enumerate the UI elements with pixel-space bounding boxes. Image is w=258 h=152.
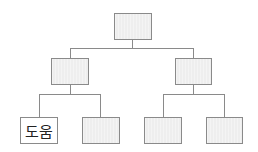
leaf-node-3 <box>144 117 182 144</box>
connector-leaf-3 <box>163 94 164 117</box>
root-node <box>114 13 152 40</box>
connector-root-down <box>132 39 133 48</box>
connector-leaf-1 <box>39 94 40 117</box>
connector-left-down <box>70 84 71 94</box>
connector-level1-bar <box>70 48 194 49</box>
leaf-node-4 <box>206 117 243 144</box>
connector-left-bar <box>39 94 101 95</box>
connector-to-left-branch <box>70 48 71 58</box>
connector-leaf-4 <box>224 94 225 117</box>
connector-leaf-2 <box>100 94 101 117</box>
leaf-node-2 <box>82 117 120 144</box>
connector-to-right-branch <box>193 48 194 58</box>
connector-right-down <box>193 84 194 94</box>
leaf-node-help: 도움 <box>20 117 58 144</box>
connector-right-bar <box>163 94 225 95</box>
level1-node-right <box>175 58 212 85</box>
level1-node-left <box>51 58 89 85</box>
